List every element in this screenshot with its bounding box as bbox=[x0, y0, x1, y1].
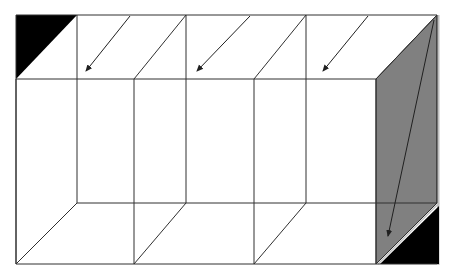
bottom-diagonal bbox=[134, 203, 186, 264]
arrow bbox=[197, 16, 250, 71]
top-diagonal bbox=[134, 15, 186, 79]
box-diagram bbox=[0, 0, 452, 278]
top-diagonal bbox=[254, 15, 306, 79]
top-left-corner-triangle bbox=[16, 15, 77, 79]
arrow bbox=[86, 16, 130, 71]
bottom-diagonal bbox=[254, 203, 306, 264]
frame-lines bbox=[16, 15, 437, 264]
bottom-diagonal bbox=[16, 203, 77, 264]
arrow bbox=[323, 16, 368, 71]
